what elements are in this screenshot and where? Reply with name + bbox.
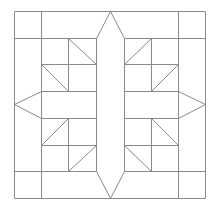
quilt-block-svg [0,0,216,211]
star-point-top-line [97,12,125,39]
quilt-block-diagram [0,0,216,211]
star-point-right-line [179,92,206,119]
diag-ur-1-line [125,39,152,65]
diag-ll-1-line [42,119,69,146]
diag-ll-2-line [69,146,97,172]
star-point-bottom-line [97,172,125,199]
diag-lr-2-line [125,146,152,172]
diag-ul-2-line [42,65,69,92]
diag-ur-2-line [152,65,179,92]
diag-ul-1-line [69,39,97,65]
star-point-left-line [15,92,42,119]
diag-lr-1-line [152,119,179,146]
